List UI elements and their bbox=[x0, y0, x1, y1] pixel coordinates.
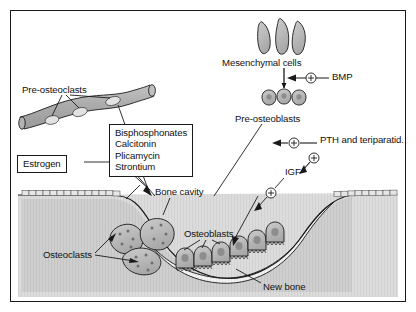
label-bone-cavity: Bone cavity bbox=[155, 186, 204, 197]
pre-osteoblasts-group bbox=[262, 89, 306, 105]
osteoclast bbox=[140, 219, 174, 250]
label-mesenchymal-cells: Mesenchymal cells bbox=[222, 57, 301, 68]
mesenchymal-cells-group bbox=[258, 18, 306, 54]
label-pre-osteoclasts: Pre-osteoclasts bbox=[22, 84, 87, 95]
bone-remodeling-figure: Pre-osteoclasts Estrogen Bisphosphonates… bbox=[0, 0, 416, 312]
osteoblast bbox=[266, 222, 284, 245]
label-bmp: BMP bbox=[332, 71, 353, 82]
label-pth: PTH and teriparatid. bbox=[320, 134, 404, 145]
label-pre-osteoblasts: Pre-osteoblasts bbox=[235, 113, 300, 124]
label-osteoclasts: Osteoclasts bbox=[43, 249, 92, 260]
osteoblast bbox=[176, 248, 194, 271]
label-osteoblasts: Osteoblasts bbox=[184, 228, 234, 239]
label-estrogen: Estrogen bbox=[17, 155, 67, 173]
label-igf: IGF bbox=[285, 166, 301, 177]
label-drug-box: Bisphosphonates Calcitonin Plicamycin St… bbox=[109, 124, 193, 177]
bone-lining-cells-left bbox=[22, 191, 120, 197]
osteoblast bbox=[248, 230, 266, 253]
label-new-bone: New bone bbox=[263, 281, 305, 292]
osteoblast bbox=[194, 246, 212, 269]
osteoblast bbox=[212, 242, 230, 265]
